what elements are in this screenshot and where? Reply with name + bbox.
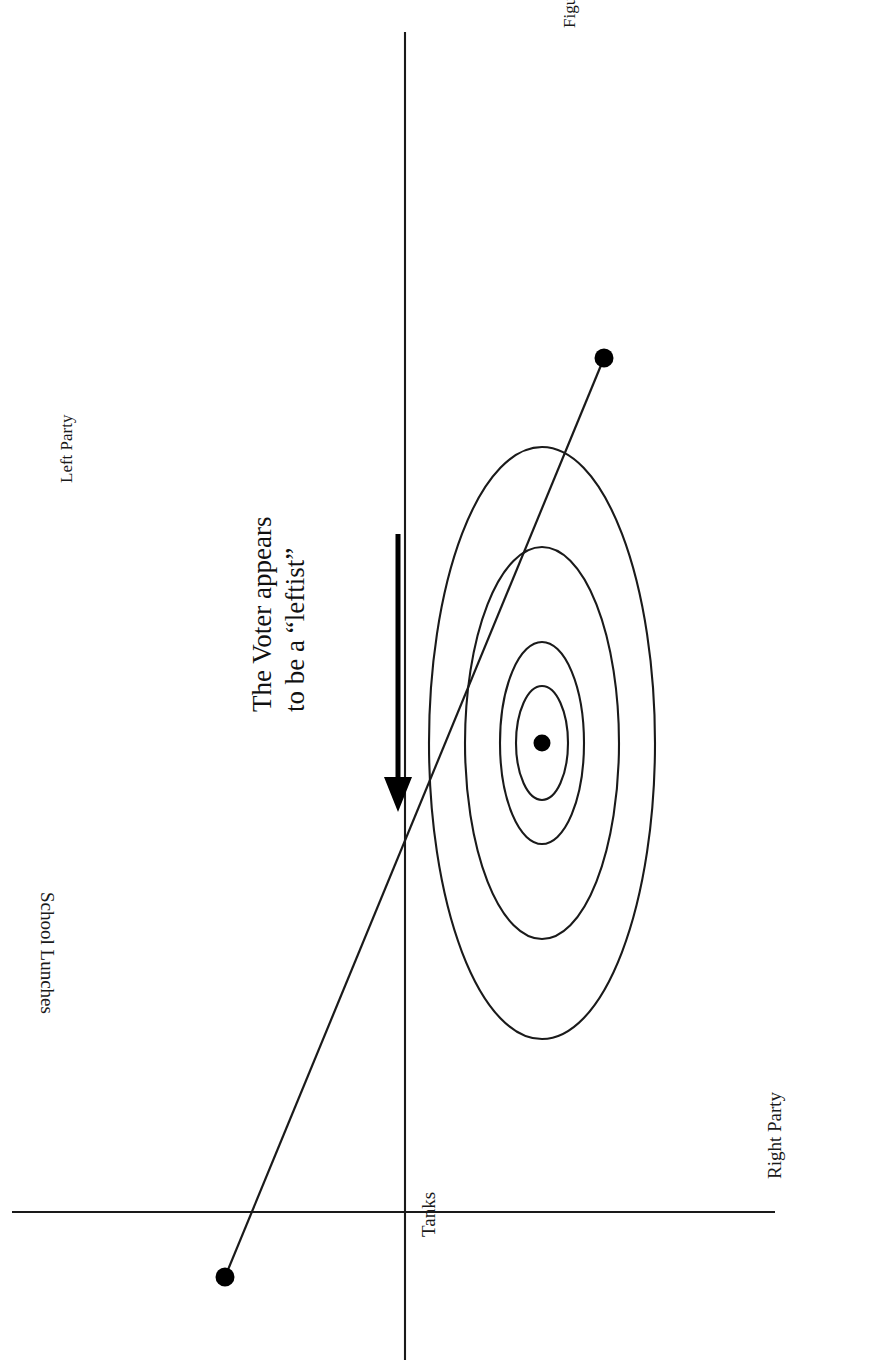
voter-annotation: The Voter appears to be a “leftist” (246, 517, 312, 712)
voter-annotation-line-1: The Voter appears (246, 517, 279, 712)
right-party-marker (216, 1268, 235, 1287)
label-left-party: Left Party (57, 415, 77, 483)
annotation-arrow (384, 534, 412, 812)
figure-caption: Figure 2.4 Two different parties and the… (560, 0, 580, 28)
voter-ideal-point-marker (534, 735, 551, 752)
left-party-marker (595, 349, 614, 368)
axis-label-school-lunches: School Lunches (36, 892, 58, 1014)
figure-vector-graphic (0, 0, 872, 1372)
party-connector-line (225, 358, 604, 1277)
axis-group (0, 32, 405, 1360)
axis-label-tanks: Tanks (418, 1192, 440, 1237)
voter-annotation-line-2: to be a “leftist” (279, 517, 312, 712)
figure-canvas: Tanks School Lunches Right Party Left Pa… (0, 0, 872, 1372)
figure-page: Tanks School Lunches Right Party Left Pa… (0, 0, 872, 1372)
label-right-party: Right Party (764, 1092, 786, 1179)
